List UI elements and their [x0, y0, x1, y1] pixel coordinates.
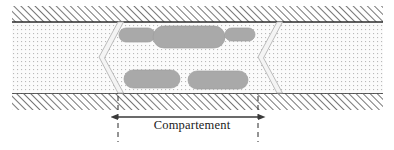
particle-bottom-left: [124, 70, 180, 88]
cross-section-figure: [0, 0, 394, 150]
particle-top-right: [225, 28, 255, 41]
bottom-wall: [12, 94, 383, 110]
particle-top-left: [119, 28, 155, 42]
top-wall: [12, 6, 383, 22]
figure-container: Compartement: [0, 0, 394, 150]
particle-bottom-right: [188, 71, 248, 89]
particle-top-center: [153, 26, 225, 48]
